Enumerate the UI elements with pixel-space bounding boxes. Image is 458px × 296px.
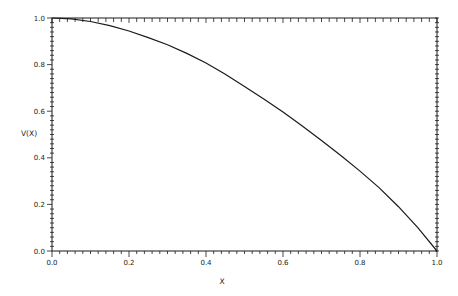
x-tick-label: 0.2 bbox=[123, 259, 134, 267]
x-tick-label: 0.0 bbox=[46, 259, 57, 267]
x-tick-labels: 0.00.20.40.60.81.0 bbox=[46, 259, 442, 267]
x-tick-label: 0.8 bbox=[354, 259, 365, 267]
x-tick-label: 0.6 bbox=[277, 259, 289, 267]
x-tick-label: 0.4 bbox=[200, 259, 212, 267]
y-axis-label: V(X) bbox=[21, 129, 37, 138]
y-tick-label: 0.0 bbox=[34, 248, 45, 256]
data-line-vx bbox=[52, 18, 437, 251]
y-tick-label: 1.0 bbox=[34, 15, 45, 23]
line-chart: 0.00.20.40.60.81.0 0.00.20.40.60.81.0 X … bbox=[0, 0, 458, 296]
y-tick-label: 0.6 bbox=[34, 108, 46, 116]
plot-frame bbox=[52, 18, 437, 251]
y-tick-label: 0.8 bbox=[34, 61, 45, 69]
y-tick-label: 0.4 bbox=[34, 154, 46, 162]
y-tick-label: 0.2 bbox=[34, 201, 45, 209]
axis-ticks bbox=[47, 18, 439, 257]
x-axis-label: X bbox=[219, 277, 224, 286]
x-tick-label: 1.0 bbox=[431, 259, 442, 267]
